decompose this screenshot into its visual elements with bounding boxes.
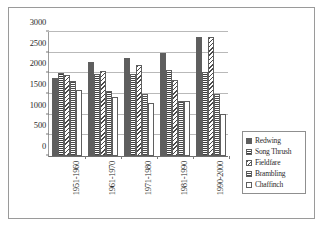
chart-legend: RedwingSong ThrushFieldfareBramblingChaf… — [242, 131, 306, 194]
x-tick-label: 1951-1960 — [71, 161, 81, 195]
bars-layer — [49, 32, 228, 156]
x-tick-mark — [121, 156, 122, 159]
bar-group — [85, 32, 121, 156]
legend-swatch-icon — [246, 182, 252, 188]
legend-item: Song Thrush — [246, 146, 302, 157]
bar — [76, 90, 82, 156]
bar-group — [121, 32, 157, 156]
y-tick-label: 500 — [34, 120, 46, 130]
legend-label: Brambling — [255, 169, 285, 178]
y-tick-label: 0 — [42, 141, 46, 151]
legend-label: Song Thrush — [255, 147, 291, 156]
x-tick-mark — [157, 156, 158, 159]
y-tick-label: 1500 — [30, 79, 46, 89]
bar — [184, 101, 190, 156]
legend-item: Redwing — [246, 135, 302, 146]
x-tick-mark — [85, 156, 86, 159]
y-tick-label: 2000 — [30, 58, 46, 68]
x-tick-label: 1990-2000 — [215, 161, 225, 195]
legend-swatch-icon — [246, 149, 252, 155]
bar-chart: 050010001500200025003000 1951-19601961-1… — [9, 8, 314, 218]
y-tick-label: 2500 — [30, 38, 46, 48]
legend-swatch-icon — [246, 160, 252, 166]
x-tick-label: 1961-1970 — [107, 161, 117, 195]
legend-item: Chaffinch — [246, 179, 302, 190]
bar-group — [193, 32, 229, 156]
legend-label: Redwing — [255, 136, 281, 145]
legend-swatch-icon — [246, 171, 252, 177]
x-tick-label: 1971-1980 — [143, 161, 153, 195]
y-tick-label: 1000 — [30, 100, 46, 110]
bar — [220, 114, 226, 156]
x-tick-mark — [193, 156, 194, 159]
x-tick-label: 1981-1990 — [179, 161, 189, 195]
bar-group — [157, 32, 193, 156]
bar — [148, 103, 154, 156]
bar — [112, 97, 118, 156]
y-tick-label: 3000 — [30, 17, 46, 27]
figure-frame: 050010001500200025003000 1951-19601961-1… — [8, 7, 315, 219]
legend-item: Fieldfare — [246, 157, 302, 168]
bar-group — [49, 32, 85, 156]
x-tick-mark — [229, 156, 230, 159]
legend-label: Chaffinch — [255, 180, 283, 189]
legend-label: Fieldfare — [255, 158, 280, 167]
plot-area: 050010001500200025003000 1951-19601961-1… — [48, 32, 228, 157]
legend-item: Brambling — [246, 168, 302, 179]
legend-swatch-icon — [246, 138, 252, 144]
